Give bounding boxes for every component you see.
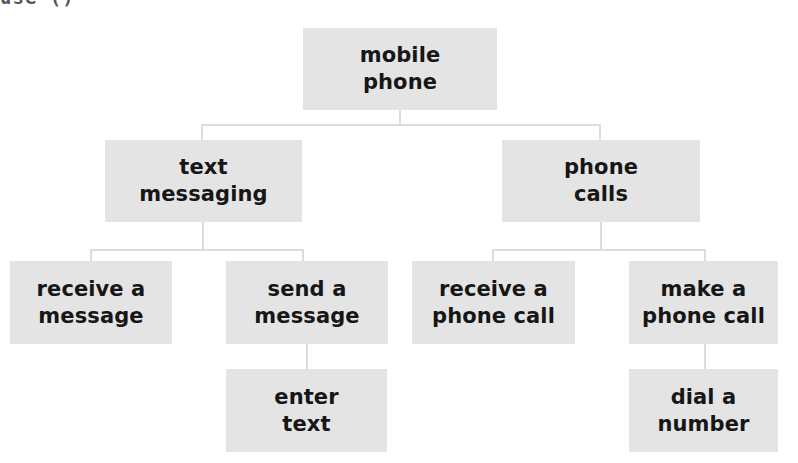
connector-send-a-message-to-enter-text [306, 344, 308, 369]
node-make-a-phone-call-label: make a phone call [642, 276, 765, 330]
connector-phone-calls-bus [492, 249, 706, 251]
task-hierarchy-diagram: use () mobile phone text messaging phone… [0, 0, 798, 463]
node-receive-a-phone-call[interactable]: receive a phone call [412, 261, 575, 344]
connector-to-phone-calls [599, 124, 601, 141]
node-receive-a-message-label: receive a message [37, 276, 146, 330]
node-enter-text[interactable]: enter text [226, 369, 387, 452]
node-receive-a-message[interactable]: receive a message [10, 261, 172, 344]
node-mobile-phone-label: mobile phone [360, 42, 441, 96]
node-dial-a-number[interactable]: dial a number [629, 369, 778, 452]
node-phone-calls[interactable]: phone calls [502, 140, 700, 222]
node-text-messaging-label: text messaging [139, 154, 267, 208]
node-make-a-phone-call[interactable]: make a phone call [629, 261, 778, 344]
node-send-a-message[interactable]: send a message [226, 261, 388, 344]
connector-level2-bus [201, 124, 601, 126]
connector-phone-calls-down [600, 222, 602, 251]
node-text-messaging[interactable]: text messaging [105, 140, 302, 222]
connector-make-a-phone-call-to-dial-a-number [704, 344, 706, 369]
connector-to-text-messaging [201, 124, 203, 141]
node-phone-calls-label: phone calls [564, 154, 638, 208]
connector-text-messaging-down [202, 222, 204, 251]
node-dial-a-number-label: dial a number [657, 384, 749, 438]
node-receive-a-phone-call-label: receive a phone call [432, 276, 555, 330]
node-send-a-message-label: send a message [254, 276, 359, 330]
clipped-header-text: use () [0, 0, 120, 8]
node-mobile-phone[interactable]: mobile phone [303, 28, 497, 110]
connector-text-messaging-bus [90, 249, 304, 251]
node-enter-text-label: enter text [274, 384, 338, 438]
